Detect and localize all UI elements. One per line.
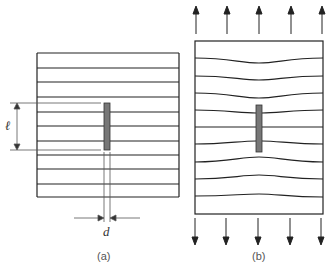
length-symbol: ℓ (5, 118, 10, 134)
tension-arrows-top (193, 6, 325, 34)
diagram-svg (0, 0, 335, 270)
figure: ℓ d (a) (b) (0, 0, 335, 270)
crack-b (256, 105, 262, 152)
width-dimension (74, 152, 140, 222)
crack-a (104, 103, 110, 150)
caption-b: (b) (252, 250, 265, 262)
tension-arrows-bottom (192, 218, 324, 245)
caption-a: (a) (97, 250, 110, 262)
width-symbol: d (103, 224, 110, 240)
